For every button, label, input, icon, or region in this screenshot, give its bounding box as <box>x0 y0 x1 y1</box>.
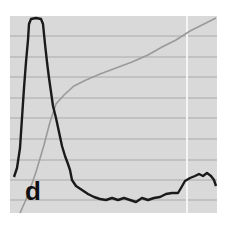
panel-label: d <box>25 178 41 204</box>
plot-background <box>10 16 217 213</box>
